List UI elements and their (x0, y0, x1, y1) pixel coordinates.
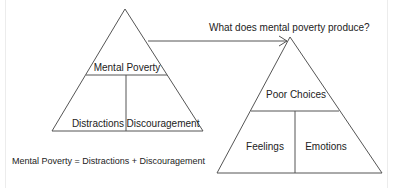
right-pyramid-bottom-left-label: Feelings (246, 141, 284, 153)
left-pyramid-bottom-left-label: Distractions (72, 118, 124, 130)
right-pyramid-bottom-right-label: Emotions (305, 141, 347, 153)
arrow-question-label: What does mental poverty produce? (209, 22, 370, 34)
right-pyramid-outline (217, 37, 382, 173)
left-pyramid-top-label: Mental Poverty (94, 62, 161, 74)
formula-text: Mental Poverty = Distractions + Discoura… (12, 155, 205, 167)
right-pyramid-top-label: Poor Choices (266, 89, 326, 101)
left-pyramid-bottom-right-label: Discouragement (127, 118, 200, 130)
